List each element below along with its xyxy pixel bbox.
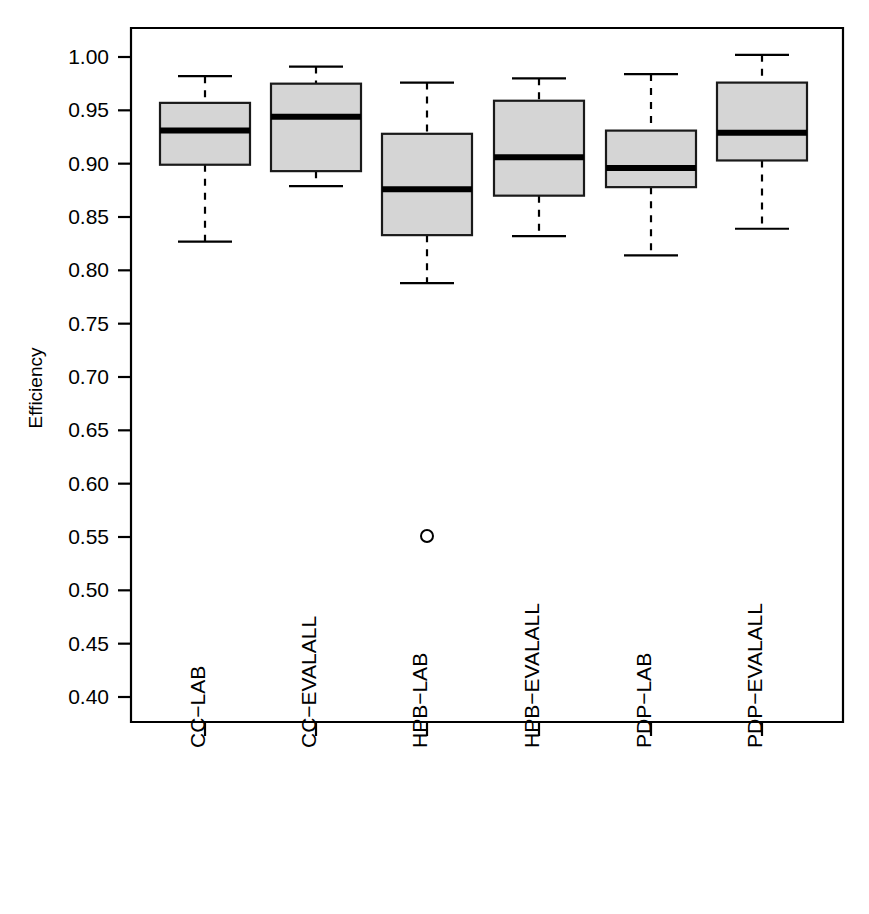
y-tick-label: 0.90 (68, 152, 109, 175)
x-category-label: PDP−LAB (632, 653, 655, 748)
y-tick-label: 0.75 (68, 312, 109, 335)
y-tick-label: 0.50 (68, 578, 109, 601)
iqr-box (494, 101, 584, 196)
y-tick-label: 0.65 (68, 418, 109, 441)
boxplot-figure: 1.000.950.900.850.800.750.700.650.600.55… (0, 0, 869, 914)
y-tick-label: 0.40 (68, 685, 109, 708)
iqr-box (717, 83, 807, 161)
y-tick-label: 0.95 (68, 98, 109, 121)
y-tick-label: 0.85 (68, 205, 109, 228)
x-category-label: PDP−EVALALL (743, 603, 766, 748)
boxplot-canvas: 1.000.950.900.850.800.750.700.650.600.55… (0, 0, 869, 914)
x-category-label: HPB−LAB (408, 653, 431, 748)
iqr-box (382, 134, 472, 235)
y-tick-label: 0.45 (68, 632, 109, 655)
x-category-label: CC−EVALALL (297, 616, 320, 748)
x-category-label: CC−LAB (186, 666, 209, 748)
y-tick-label: 1.00 (68, 45, 109, 68)
y-tick-label: 0.55 (68, 525, 109, 548)
y-axis-title: Efficiency (25, 347, 46, 428)
iqr-box (606, 131, 696, 188)
y-tick-label: 0.70 (68, 365, 109, 388)
box-plot-item (271, 67, 361, 186)
iqr-box (160, 103, 250, 165)
y-tick-label: 0.60 (68, 472, 109, 495)
iqr-box (271, 84, 361, 171)
y-tick-label: 0.80 (68, 258, 109, 281)
x-category-label: HPB−EVALALL (520, 603, 543, 748)
